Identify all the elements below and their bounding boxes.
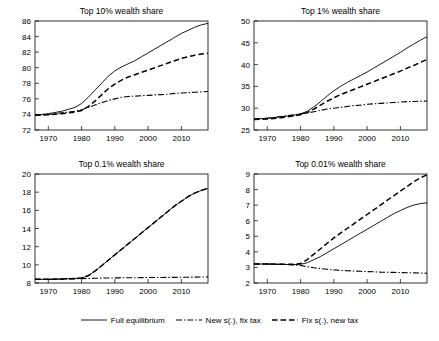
series-line xyxy=(35,23,208,115)
y-tick-label: 12 xyxy=(22,243,31,252)
x-tick-label: 1990 xyxy=(106,134,124,143)
x-tick-label: 1970 xyxy=(39,134,57,143)
y-tick-label: 74 xyxy=(22,110,31,119)
legend-item-new-s-fix-tax: New s(.), fix tax xyxy=(176,316,261,325)
panel-title: Top 10% wealth share xyxy=(80,6,164,16)
y-tick-label: 14 xyxy=(22,225,31,234)
panel-title: Top 0.1% wealth share xyxy=(79,159,165,169)
y-tick-label: 45 xyxy=(241,39,250,48)
x-tick-label: 2000 xyxy=(139,287,157,296)
legend-label: Fix s(.), new tax xyxy=(302,316,358,325)
y-tick-label: 78 xyxy=(22,79,31,88)
y-tick-label: 20 xyxy=(22,170,31,179)
y-tick-label: 5 xyxy=(246,232,251,241)
y-tick-label: 16 xyxy=(22,206,31,215)
legend-label: Full equilibrium xyxy=(111,316,165,325)
x-tick-label: 1990 xyxy=(325,287,343,296)
y-tick-label: 8 xyxy=(246,186,251,195)
x-tick-label: 1970 xyxy=(39,287,57,296)
x-tick-label: 2010 xyxy=(391,134,409,143)
chart-panel-bottom-right: Top 0.01% wealth share234567891970198019… xyxy=(219,155,439,305)
y-tick-label: 8 xyxy=(27,279,32,288)
series-line xyxy=(254,59,427,119)
chart-panel-top-right: Top 1% wealth share253035404550197019801… xyxy=(219,2,439,152)
x-tick-label: 1980 xyxy=(73,287,91,296)
panel-title: Top 1% wealth share xyxy=(301,6,380,16)
y-tick-label: 50 xyxy=(241,17,250,26)
y-tick-label: 4 xyxy=(246,248,251,257)
wealth-share-figure: Top 10% wealth share72747678808284861970… xyxy=(0,0,439,341)
plot-frame xyxy=(35,174,208,283)
x-tick-label: 1980 xyxy=(292,287,310,296)
y-tick-label: 82 xyxy=(22,48,31,57)
panel-title: Top 0.01% wealth share xyxy=(295,159,386,169)
y-tick-label: 86 xyxy=(22,17,31,26)
series-line xyxy=(254,264,427,273)
x-tick-label: 2010 xyxy=(172,287,190,296)
y-tick-label: 9 xyxy=(246,170,251,179)
x-tick-label: 2010 xyxy=(172,134,190,143)
x-tick-label: 1970 xyxy=(258,134,276,143)
x-tick-label: 2000 xyxy=(358,287,376,296)
y-tick-label: 72 xyxy=(22,126,31,135)
x-tick-label: 2010 xyxy=(391,287,409,296)
legend-line-swatch-dashed xyxy=(272,316,298,324)
legend-line-swatch-dash-dot xyxy=(176,316,202,324)
y-tick-label: 25 xyxy=(241,126,250,135)
y-tick-label: 10 xyxy=(22,261,31,270)
legend-item-fix-s-new-tax: Fix s(.), new tax xyxy=(272,316,358,325)
series-line xyxy=(254,101,427,119)
y-tick-label: 84 xyxy=(22,33,31,42)
x-tick-label: 2000 xyxy=(139,134,157,143)
legend-line-swatch-solid xyxy=(81,316,107,324)
x-tick-label: 1980 xyxy=(73,134,91,143)
y-tick-label: 2 xyxy=(246,279,251,288)
x-tick-label: 1990 xyxy=(106,287,124,296)
legend-item-full-equilibrium: Full equilibrium xyxy=(81,316,165,325)
y-tick-label: 76 xyxy=(22,95,31,104)
plot-frame xyxy=(254,21,427,130)
series-line xyxy=(254,37,427,119)
x-tick-label: 1970 xyxy=(258,287,276,296)
y-tick-label: 30 xyxy=(241,104,250,113)
series-line xyxy=(35,53,208,115)
y-tick-label: 18 xyxy=(22,188,31,197)
chart-panel-top-left: Top 10% wealth share72747678808284861970… xyxy=(0,2,220,152)
x-tick-label: 2000 xyxy=(358,134,376,143)
chart-panel-bottom-left: Top 0.1% wealth share8101214161820197019… xyxy=(0,155,220,305)
y-tick-label: 7 xyxy=(246,201,251,210)
y-tick-label: 3 xyxy=(246,263,251,272)
series-line xyxy=(254,175,427,265)
x-tick-label: 1980 xyxy=(292,134,310,143)
figure-legend: Full equilibriumNew s(.), fix taxFix s(.… xyxy=(0,305,439,335)
y-tick-label: 40 xyxy=(241,61,250,70)
series-line xyxy=(35,188,208,279)
x-tick-label: 1990 xyxy=(325,134,343,143)
y-tick-label: 6 xyxy=(246,217,251,226)
series-line xyxy=(35,189,208,280)
y-tick-label: 35 xyxy=(241,82,250,91)
y-tick-label: 80 xyxy=(22,64,31,73)
legend-label: New s(.), fix tax xyxy=(206,316,261,325)
